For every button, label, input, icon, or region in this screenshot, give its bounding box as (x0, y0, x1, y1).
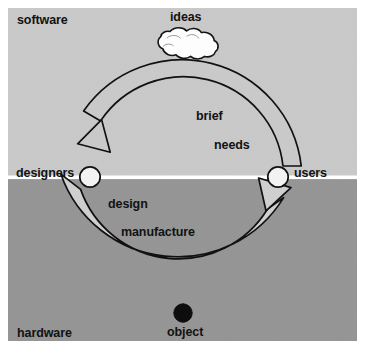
node-label-ideas: ideas (170, 11, 201, 24)
flow-label-manufacture: manufacture (121, 226, 195, 239)
node-label-designers: designers (16, 167, 74, 180)
region-label-software: software (17, 14, 68, 27)
flow-label-needs: needs (214, 139, 250, 152)
users-node (268, 167, 288, 187)
region-label-hardware: hardware (17, 327, 72, 340)
flow-label-design: design (108, 198, 148, 211)
node-label-object: object (167, 326, 203, 339)
object-node (174, 304, 192, 322)
flow-label-brief: brief (196, 110, 223, 123)
node-label-users: users (294, 167, 327, 180)
cycle-diagram-figure: software hardware ideas designers users … (0, 0, 368, 351)
designers-node (80, 167, 100, 187)
